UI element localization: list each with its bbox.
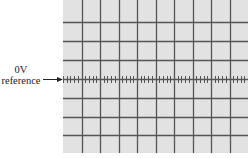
oscilloscope-screen (63, 0, 248, 153)
zero-volt-reference-label: 0V reference (0, 64, 42, 86)
zero-volt-text: 0V (0, 64, 42, 75)
reference-text: reference (0, 75, 42, 86)
graticule-grid (63, 0, 248, 153)
arrow-right-icon (43, 76, 63, 83)
